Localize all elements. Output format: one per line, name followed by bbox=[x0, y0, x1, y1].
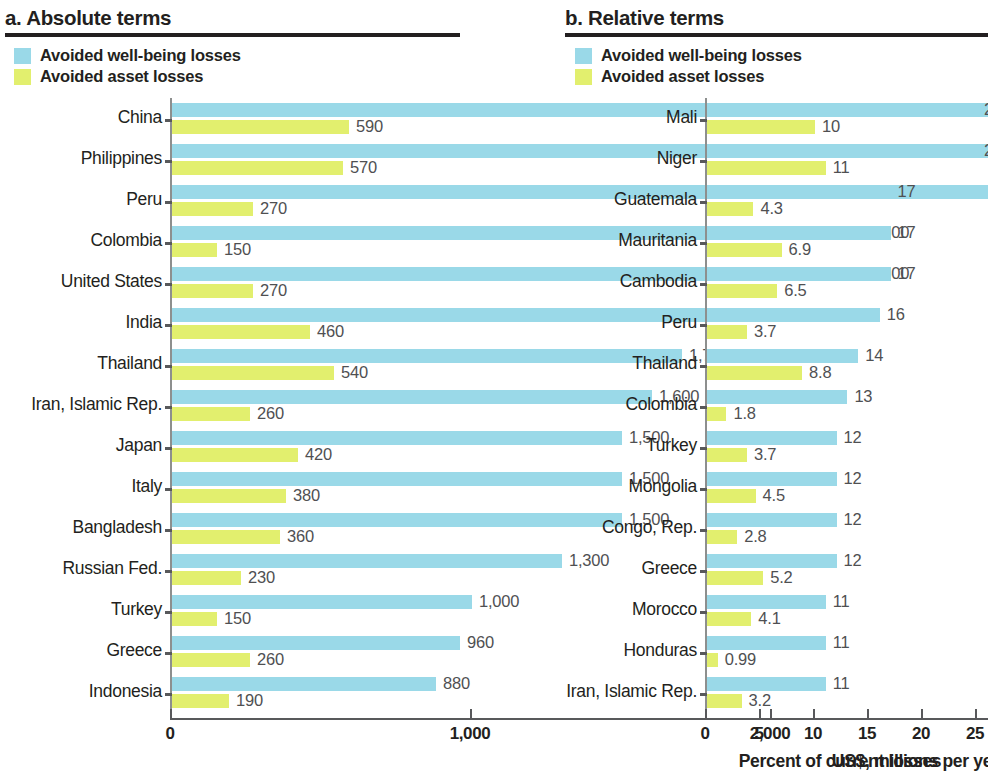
category-tick bbox=[165, 488, 172, 491]
bar-asset-losses bbox=[707, 694, 742, 708]
category-label: Japan bbox=[116, 435, 162, 456]
bar-asset-losses bbox=[707, 448, 747, 462]
category-label: Morocco bbox=[632, 599, 697, 620]
bar-value-assets: 260 bbox=[257, 650, 284, 669]
category-tick bbox=[700, 611, 707, 614]
category-tick bbox=[700, 242, 707, 245]
legend-swatch-well-being bbox=[14, 48, 31, 64]
category-label: Niger bbox=[657, 148, 697, 169]
category-label: Congo, Rep. bbox=[602, 517, 697, 538]
bar-value-assets: 4.3 bbox=[760, 199, 782, 218]
bar-well-being-losses bbox=[172, 595, 472, 609]
x-axis-tick-label: 0 bbox=[700, 724, 709, 744]
bar-asset-losses bbox=[707, 284, 777, 298]
category-tick bbox=[700, 488, 707, 491]
category-tick bbox=[700, 201, 707, 204]
bar-value-well-being: 11 bbox=[833, 674, 850, 693]
bar-asset-losses bbox=[707, 612, 751, 626]
bar-well-being-losses bbox=[707, 677, 826, 691]
bar-asset-losses bbox=[172, 325, 310, 339]
bar-value-assets: 230 bbox=[248, 568, 275, 587]
chart-row: Mongolia124.5 bbox=[500, 469, 988, 510]
category-tick bbox=[165, 529, 172, 532]
legend-label-assets: Avoided asset losses bbox=[601, 67, 764, 86]
x-axis-tick-label: 5 bbox=[754, 724, 763, 744]
bar-asset-losses bbox=[707, 407, 726, 421]
category-label: Mali bbox=[666, 107, 697, 128]
x-axis-tick bbox=[813, 709, 815, 718]
chart-row: Peru2,900270 bbox=[0, 182, 500, 223]
bar-value-assets: 460 bbox=[317, 322, 344, 341]
legend-label-assets: Avoided asset losses bbox=[40, 67, 203, 86]
category-label: Turkey bbox=[111, 599, 162, 620]
x-axis-line bbox=[705, 718, 975, 720]
bar-well-being-losses bbox=[707, 431, 837, 445]
category-tick bbox=[165, 570, 172, 573]
chart-row: China4,800590 bbox=[0, 100, 500, 141]
x-axis-tick-label: 10 bbox=[804, 724, 822, 744]
bar-value-well-being: 17 bbox=[898, 264, 916, 283]
bar-value-assets: 150 bbox=[224, 609, 251, 628]
bar-value-assets: 190 bbox=[236, 691, 263, 710]
bar-asset-losses bbox=[172, 284, 253, 298]
legend-item-assets: Avoided asset losses bbox=[575, 66, 802, 87]
bar-value-assets: 380 bbox=[293, 486, 320, 505]
legend-swatch-assets bbox=[575, 69, 592, 85]
chart-row: Peru163.7 bbox=[500, 305, 988, 346]
chart-row: India2,000460 bbox=[0, 305, 500, 346]
bar-well-being-losses bbox=[707, 472, 837, 486]
category-tick bbox=[165, 160, 172, 163]
category-tick bbox=[700, 447, 707, 450]
bar-asset-losses bbox=[707, 202, 753, 216]
category-label: China bbox=[118, 107, 162, 128]
category-label: Bangladesh bbox=[73, 517, 162, 538]
bar-asset-losses bbox=[172, 571, 241, 585]
bar-value-assets: 8.8 bbox=[809, 363, 831, 382]
category-label: Guatemala bbox=[614, 189, 697, 210]
bar-asset-losses bbox=[172, 120, 349, 134]
bar-asset-losses bbox=[707, 366, 802, 380]
bar-value-well-being: 12 bbox=[844, 469, 862, 488]
chart-row: Italy1,500380 bbox=[0, 469, 500, 510]
chart-row: Turkey1,000150 bbox=[0, 592, 500, 633]
category-label: India bbox=[126, 312, 162, 333]
bar-asset-losses bbox=[707, 243, 782, 257]
panel-a-title: a. Absolute terms bbox=[5, 6, 171, 30]
bar-value-well-being: 25 bbox=[984, 141, 988, 160]
legend-item-well-being: Avoided well-being losses bbox=[575, 45, 802, 66]
bar-value-well-being: 14 bbox=[865, 346, 883, 365]
category-tick bbox=[165, 693, 172, 696]
chart-row: Philippines3,300570 bbox=[0, 141, 500, 182]
category-tick bbox=[165, 201, 172, 204]
x-axis-tick-label: 1,000 bbox=[450, 724, 491, 744]
bar-value-assets: 11 bbox=[833, 158, 850, 177]
bar-value-assets: 6.9 bbox=[789, 240, 811, 259]
bar-asset-losses bbox=[172, 366, 334, 380]
x-axis-tick bbox=[759, 709, 761, 718]
category-label: Italy bbox=[131, 476, 162, 497]
bar-well-being-losses bbox=[707, 226, 891, 240]
bar-asset-losses bbox=[707, 161, 826, 175]
bar-well-being-losses bbox=[172, 677, 436, 691]
legend-swatch-assets bbox=[14, 69, 31, 85]
x-axis-tick-label: 25 bbox=[966, 724, 984, 744]
category-label: Philippines bbox=[81, 148, 162, 169]
category-tick bbox=[700, 570, 707, 573]
bar-well-being-losses bbox=[707, 390, 847, 404]
bar-value-assets: 3.7 bbox=[754, 322, 776, 341]
bar-asset-losses bbox=[707, 120, 815, 134]
chart-row: United States2,300270 bbox=[0, 264, 500, 305]
bar-value-well-being: 960 bbox=[467, 633, 494, 652]
bar-asset-losses bbox=[707, 325, 747, 339]
bar-value-assets: 2.8 bbox=[744, 527, 766, 546]
bar-value-assets: 4.5 bbox=[763, 486, 785, 505]
bar-value-assets: 590 bbox=[356, 117, 383, 136]
bar-asset-losses bbox=[707, 571, 763, 585]
x-axis-tick bbox=[867, 709, 869, 718]
bar-well-being-losses bbox=[707, 595, 826, 609]
bar-asset-losses bbox=[172, 694, 229, 708]
category-tick bbox=[165, 119, 172, 122]
category-tick bbox=[700, 693, 707, 696]
category-tick bbox=[165, 652, 172, 655]
chart-row: Mali2510 bbox=[500, 100, 988, 141]
